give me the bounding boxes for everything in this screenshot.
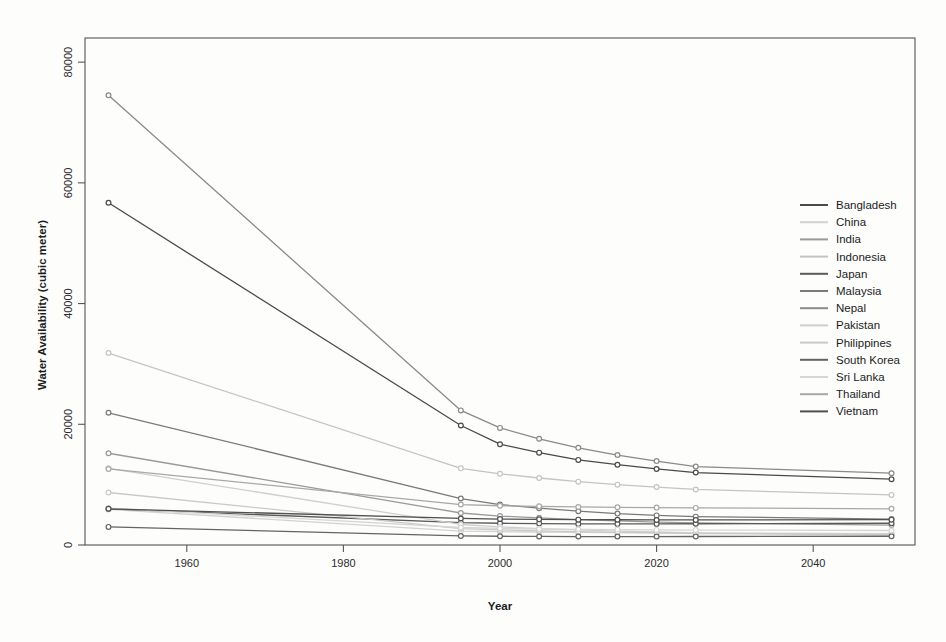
legend-label: Vietnam xyxy=(836,405,878,417)
data-point xyxy=(889,528,894,533)
data-point xyxy=(615,482,620,487)
data-point xyxy=(576,445,581,450)
data-point xyxy=(537,534,542,539)
data-point xyxy=(889,517,894,522)
data-point xyxy=(889,534,894,539)
data-point xyxy=(654,518,659,523)
data-point xyxy=(106,200,111,205)
legend-label: Japan xyxy=(836,268,867,280)
legend-item-philippines[interactable]: Philippines xyxy=(800,337,892,349)
data-point xyxy=(576,517,581,522)
data-point xyxy=(458,511,463,516)
data-point xyxy=(693,518,698,523)
data-point xyxy=(106,451,111,456)
x-tick-label: 2000 xyxy=(488,557,512,569)
legend-label: India xyxy=(836,233,862,245)
figure-page: 020000400006000080000 196019802000202020… xyxy=(0,0,946,642)
data-point xyxy=(693,528,698,533)
series-line xyxy=(108,95,891,473)
data-point xyxy=(498,471,503,476)
legend-item-china[interactable]: China xyxy=(800,216,867,228)
y-tick-label: 40000 xyxy=(62,288,74,319)
legend-item-japan[interactable]: Japan xyxy=(800,268,867,280)
data-point xyxy=(537,504,542,509)
data-point xyxy=(537,476,542,481)
data-point xyxy=(576,534,581,539)
data-point xyxy=(106,490,111,495)
data-point xyxy=(576,457,581,462)
plot-frame xyxy=(85,38,915,545)
legend-item-thailand[interactable]: Thailand xyxy=(800,388,880,400)
data-point xyxy=(654,485,659,490)
series-bangladesh xyxy=(106,200,894,481)
legend-item-bangladesh[interactable]: Bangladesh xyxy=(800,199,897,211)
x-tick-label: 1980 xyxy=(331,557,355,569)
plot-border xyxy=(85,38,915,545)
data-point xyxy=(537,436,542,441)
data-point xyxy=(615,517,620,522)
data-point xyxy=(458,466,463,471)
legend-item-indonesia[interactable]: Indonesia xyxy=(800,251,886,263)
legend-item-south-korea[interactable]: South Korea xyxy=(800,354,901,366)
data-point xyxy=(889,471,894,476)
legend-label: Indonesia xyxy=(836,251,886,263)
data-point xyxy=(106,93,111,98)
chart-legend: BangladeshChinaIndiaIndonesiaJapanMalays… xyxy=(800,199,901,417)
y-tick-label: 20000 xyxy=(62,409,74,440)
data-point xyxy=(693,505,698,510)
series-layer xyxy=(106,93,894,539)
data-point xyxy=(106,524,111,529)
legend-label: Nepal xyxy=(836,302,866,314)
x-tick-label: 2020 xyxy=(644,557,668,569)
legend-label: Sri Lanka xyxy=(836,371,885,383)
data-point xyxy=(615,462,620,467)
data-point xyxy=(498,526,503,531)
series-nepal xyxy=(106,93,894,476)
data-point xyxy=(498,503,503,508)
data-point xyxy=(889,506,894,511)
series-line xyxy=(108,203,891,479)
legend-item-pakistan[interactable]: Pakistan xyxy=(800,319,880,331)
data-point xyxy=(537,517,542,522)
data-point xyxy=(576,505,581,510)
data-point xyxy=(576,527,581,532)
data-point xyxy=(498,517,503,522)
x-axis-title: Year xyxy=(488,600,513,612)
legend-label: Philippines xyxy=(836,337,892,349)
data-point xyxy=(458,534,463,539)
data-point xyxy=(889,477,894,482)
data-point xyxy=(498,426,503,431)
data-point xyxy=(654,459,659,464)
data-point xyxy=(458,502,463,507)
data-point xyxy=(537,450,542,455)
legend-label: South Korea xyxy=(836,354,901,366)
data-point xyxy=(654,505,659,510)
data-point xyxy=(693,464,698,469)
legend-item-sri-lanka[interactable]: Sri Lanka xyxy=(800,371,885,383)
data-point xyxy=(615,453,620,458)
legend-label: Pakistan xyxy=(836,319,880,331)
data-point xyxy=(458,408,463,413)
x-tick-label: 2040 xyxy=(801,557,825,569)
data-point xyxy=(654,528,659,533)
data-point xyxy=(693,534,698,539)
x-axis-ticks: 19601980200020202040 xyxy=(175,545,826,569)
legend-item-nepal[interactable]: Nepal xyxy=(800,302,866,314)
legend-label: Thailand xyxy=(836,388,880,400)
legend-item-vietnam[interactable]: Vietnam xyxy=(800,405,878,417)
y-axis-title: Water Availability (cubic meter) xyxy=(36,220,48,390)
data-point xyxy=(693,487,698,492)
y-axis-ticks: 020000400006000080000 xyxy=(62,47,85,548)
data-point xyxy=(106,506,111,511)
y-tick-label: 60000 xyxy=(62,168,74,199)
y-tick-label: 80000 xyxy=(62,47,74,78)
legend-item-india[interactable]: India xyxy=(800,233,862,245)
data-point xyxy=(889,493,894,498)
y-tick-label: 0 xyxy=(62,542,74,548)
data-point xyxy=(615,505,620,510)
data-point xyxy=(615,527,620,532)
data-point xyxy=(576,479,581,484)
x-tick-label: 1960 xyxy=(175,557,199,569)
data-point xyxy=(693,470,698,475)
legend-item-malaysia[interactable]: Malaysia xyxy=(800,285,882,297)
